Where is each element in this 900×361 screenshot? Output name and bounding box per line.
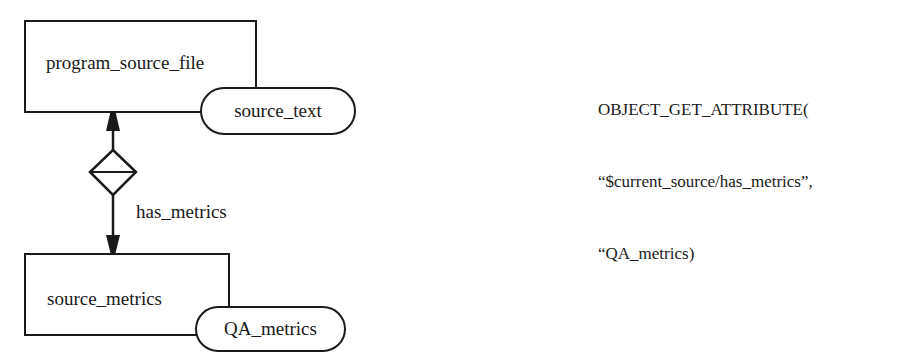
code-line-2: “$current_source/has_metrics”, xyxy=(598,170,813,194)
relationship-label: has_metrics xyxy=(136,201,227,223)
entity-label-program-source-file: program_source_file xyxy=(46,52,204,74)
attribute-qa-metrics: QA_metrics xyxy=(195,306,346,352)
code-line-1: OBJECT_GET_ATTRIBUTE( xyxy=(598,98,813,122)
code-snippet: OBJECT_GET_ATTRIBUTE( “$current_source/h… xyxy=(598,50,813,314)
attribute-source-text: source_text xyxy=(200,87,356,135)
er-diagram: program_source_file source_text has_metr… xyxy=(0,0,900,361)
code-line-3: “QA_metrics) xyxy=(598,242,813,266)
entity-label-source-metrics: source_metrics xyxy=(47,288,162,310)
relationship-diamond-icon xyxy=(90,150,136,195)
